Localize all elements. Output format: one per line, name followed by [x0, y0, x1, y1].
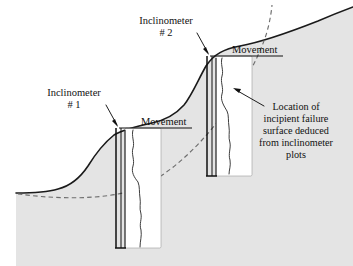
- inclinometer-2-arrow-head-icon: [203, 47, 209, 55]
- failure-surface-caption-line2: incipient failure: [264, 113, 329, 124]
- movement-lower-label: Movement: [141, 116, 187, 127]
- failure-surface-caption-line3: surface deduced: [263, 125, 329, 136]
- failure-surface-caption-line1: Location of: [272, 101, 320, 112]
- diagram-canvas: Inclinometer # 1 Inclinometer # 2 Moveme…: [0, 0, 353, 266]
- failure-surface-caption-line5: plots: [286, 149, 306, 160]
- inclinometer-1-label-line2: # 1: [67, 99, 80, 110]
- inclinometer-2-label-line1: Inclinometer: [139, 15, 193, 26]
- inclinometer-1-plot-panel: [125, 128, 161, 248]
- slope-cross-section-figure: Inclinometer # 1 Inclinometer # 2 Moveme…: [0, 0, 353, 266]
- inclinometer-1-arrow-head-icon: [112, 119, 118, 127]
- movement-upper-label: Movement: [232, 44, 278, 55]
- inclinometer-1-label-line1: Inclinometer: [47, 87, 101, 98]
- failure-surface-caption-line4: from inclinometer: [259, 137, 333, 148]
- inclinometer-2-plot-panel: [216, 56, 252, 176]
- inclinometer-2-label-line2: # 2: [159, 27, 172, 38]
